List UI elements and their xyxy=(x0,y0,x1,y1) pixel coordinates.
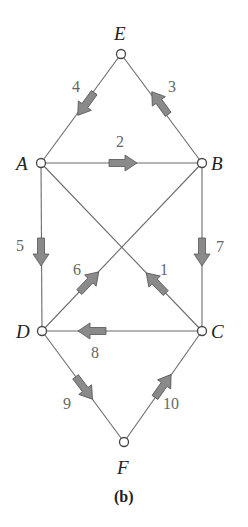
node-E xyxy=(117,50,126,59)
node-B xyxy=(198,159,207,168)
node-E-label: E xyxy=(113,23,126,44)
edge-7-label: 7 xyxy=(216,238,224,255)
node-A-label: A xyxy=(14,153,28,174)
edge-2-arrow-icon xyxy=(109,155,137,171)
edge-1-label: 1 xyxy=(160,261,168,278)
node-D xyxy=(38,327,47,336)
edge-2-label: 2 xyxy=(116,133,124,150)
directed-graph: 1 2 3 4 5 6 7 8 9 10 E A B D C F (b) xyxy=(0,0,248,527)
edge-9-arrow-icon xyxy=(69,372,99,404)
node-F-label: F xyxy=(116,457,129,478)
edge-8-arrow-icon xyxy=(78,323,106,339)
node-D-label: D xyxy=(15,321,30,342)
figure-caption: (b) xyxy=(114,488,134,506)
node-C-label: C xyxy=(211,321,224,342)
edge-5-label: 5 xyxy=(16,237,24,254)
edge-9-label: 9 xyxy=(63,395,71,412)
edge-5-arrow-icon xyxy=(33,238,49,266)
edge-10-label: 10 xyxy=(163,395,179,412)
node-B-label: B xyxy=(211,153,223,174)
edge-8-label: 8 xyxy=(91,344,99,361)
edge-4-label: 4 xyxy=(72,78,80,95)
edge-3-label: 3 xyxy=(168,78,176,95)
edge-7-arrow-icon xyxy=(194,238,210,266)
node-A xyxy=(37,159,46,168)
node-C xyxy=(198,327,207,336)
edge-6-label: 6 xyxy=(73,261,81,278)
edge-lines xyxy=(41,54,202,442)
node-F xyxy=(120,438,129,447)
